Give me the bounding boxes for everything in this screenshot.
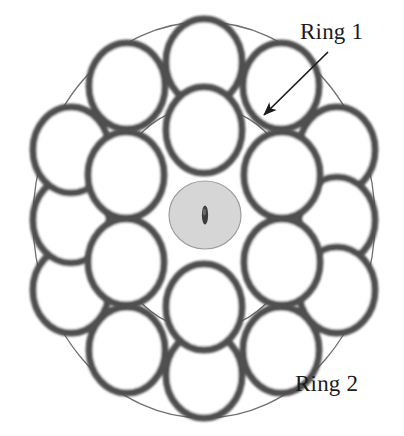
tube-r2-top-left (89, 43, 165, 129)
tube-r1-upper-right (244, 132, 320, 218)
tube-r1-lower-right (244, 219, 320, 305)
tube-r1-top (166, 87, 242, 173)
central-core (169, 181, 241, 249)
ring-1-label: Ring 1 (300, 20, 363, 43)
tube-r1-upper-left (88, 132, 164, 218)
ring-2-label: Ring 2 (295, 372, 358, 395)
tube-r2-top-right (243, 43, 319, 129)
tube-r1-bottom (166, 264, 242, 350)
core-center-highlight (203, 209, 206, 216)
figure-root: Ring 1 Ring 2 (0, 0, 404, 436)
tube-r1-lower-left (88, 219, 164, 305)
